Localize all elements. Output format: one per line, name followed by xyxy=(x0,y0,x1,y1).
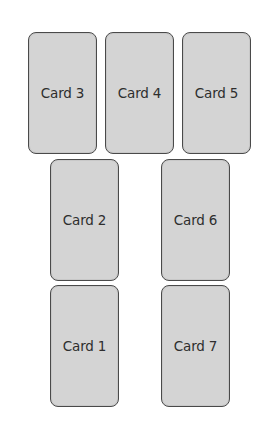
card-6[interactable]: Card 6 xyxy=(161,159,230,281)
card-1[interactable]: Card 1 xyxy=(50,285,119,407)
card-label: Card 3 xyxy=(41,85,84,101)
card-label: Card 7 xyxy=(174,338,217,354)
card-7[interactable]: Card 7 xyxy=(161,285,230,407)
card-label: Card 6 xyxy=(174,212,217,228)
card-label: Card 4 xyxy=(118,85,161,101)
card-label: Card 5 xyxy=(195,85,238,101)
card-layout-diagram: Card 3 Card 4 Card 5 Card 2 Card 6 Card … xyxy=(0,0,273,441)
card-2[interactable]: Card 2 xyxy=(50,159,119,281)
card-label: Card 1 xyxy=(63,338,106,354)
card-3[interactable]: Card 3 xyxy=(28,32,97,154)
card-label: Card 2 xyxy=(63,212,106,228)
card-4[interactable]: Card 4 xyxy=(105,32,174,154)
card-5[interactable]: Card 5 xyxy=(182,32,251,154)
